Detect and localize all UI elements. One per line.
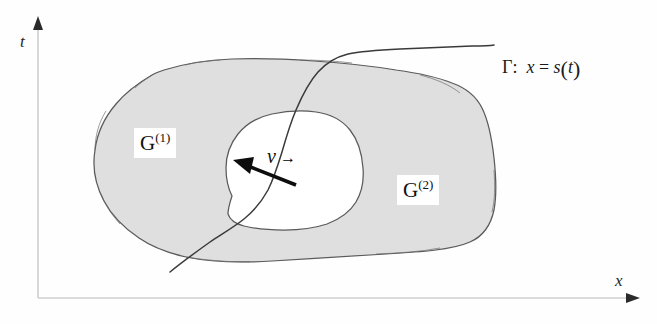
x-axis-arrowhead-icon [626, 293, 640, 303]
interface-eq-close-paren: ) [573, 56, 580, 81]
diagram-svg [0, 0, 657, 324]
t-axis-arrowhead-icon [33, 16, 43, 30]
interface-colon: : [512, 57, 517, 77]
region-label-g2-superscript: (2) [418, 177, 433, 192]
x-axis-label: x [615, 272, 623, 289]
interface-gamma-symbol: Γ [502, 57, 512, 77]
vector-accent-icon: → [280, 149, 296, 166]
region-label-g2: G(2) [397, 175, 439, 205]
interface-eq-relation: = [539, 57, 549, 77]
region-label-g1-base: G [140, 131, 155, 155]
velocity-vector-label: v → [267, 146, 296, 167]
interface-label: Γ: x = s(t) [502, 58, 580, 80]
region-label-g1: G(1) [134, 128, 176, 158]
interface-eq-lhs: x [526, 57, 534, 77]
region-label-g1-superscript: (1) [155, 130, 170, 145]
figure-canvas: t x G(1) G(2) Γ: x = s(t) v → [0, 0, 657, 324]
t-axis-label: t [20, 33, 25, 50]
interface-eq-function: s [554, 57, 561, 77]
velocity-vector-letter: v [267, 145, 276, 167]
interface-eq-open-paren: ( [561, 56, 568, 81]
region-label-g2-base: G [403, 178, 418, 202]
